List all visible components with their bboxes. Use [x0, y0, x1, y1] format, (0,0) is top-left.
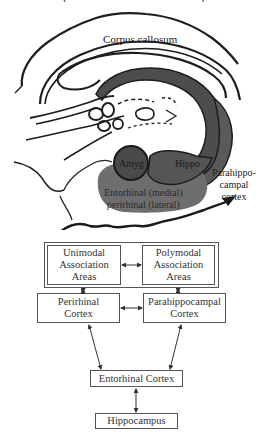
- label-corpus-callosum: Corpus callosum: [103, 34, 177, 45]
- label-hippocampus: Hippo: [175, 159, 200, 169]
- label-entorhinal-perirhinal: Entorhinal (medial) perirhinal (lateral): [104, 187, 183, 211]
- label-parahippocampal-cortex: Parahippo- campal cortex: [212, 167, 256, 203]
- label-amygdala: Amyg: [119, 159, 144, 169]
- arrow-parahippocampal-entorhinal: [170, 325, 181, 369]
- flowchart: Unimodal Association Areas Polymodal Ass…: [0, 230, 268, 439]
- brain-illustration: Corpus callosum Amyg Hippo Parahippo- ca…: [0, 0, 268, 230]
- flowchart-arrows: [0, 230, 268, 439]
- arrow-perirhinal-entorhinal: [89, 325, 101, 369]
